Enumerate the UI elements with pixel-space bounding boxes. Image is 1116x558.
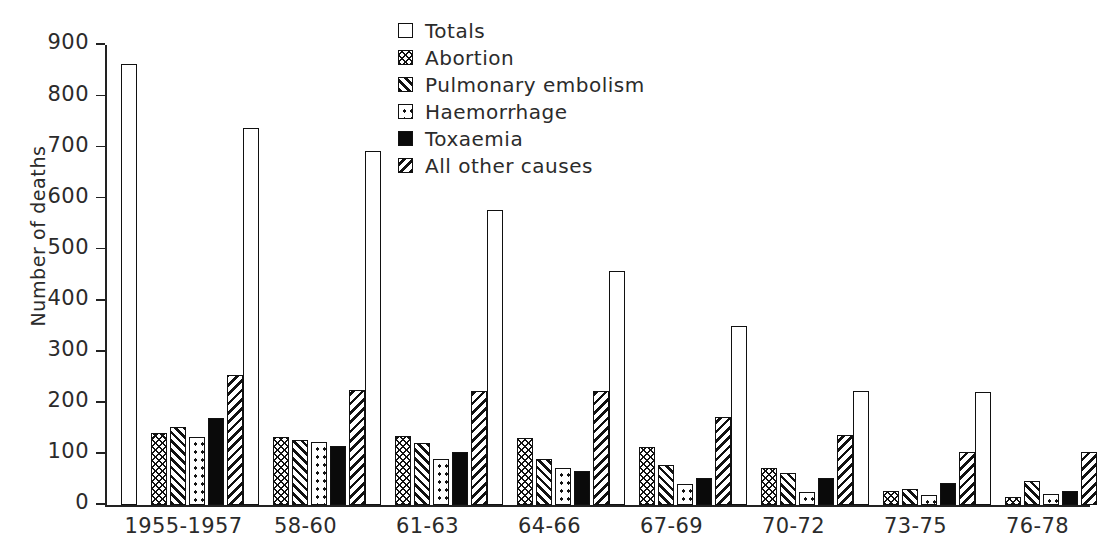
bar xyxy=(902,489,918,505)
y-tick: 0 xyxy=(96,503,105,505)
bar xyxy=(487,210,503,505)
legend-swatch-icon xyxy=(398,77,413,92)
legend-item: Toxaemia xyxy=(398,126,645,151)
legend-swatch-icon xyxy=(398,23,413,38)
bar xyxy=(555,468,571,505)
x-axis-category-label: 1955-1957 xyxy=(124,514,242,538)
legend-item: Totals xyxy=(398,18,645,43)
bar xyxy=(761,468,777,505)
legend-swatch-icon xyxy=(398,158,413,173)
bar xyxy=(349,390,365,505)
bar xyxy=(658,465,674,505)
bar xyxy=(940,483,956,505)
bar xyxy=(799,492,815,505)
bar xyxy=(395,436,411,506)
maternal-deaths-bar-chart: Number of deaths 01002003004005006007008… xyxy=(0,0,1116,558)
y-tick: 100 xyxy=(96,452,105,454)
y-tick-label: 600 xyxy=(47,184,89,208)
y-tick-label: 200 xyxy=(47,388,89,412)
x-axis-category-label: 58-60 xyxy=(274,514,337,538)
y-tick: 600 xyxy=(96,197,105,199)
bar xyxy=(780,473,796,505)
bar xyxy=(414,443,430,505)
y-tick-label: 700 xyxy=(47,133,89,157)
legend-item: Pulmonary embolism xyxy=(398,72,645,97)
legend-swatch-icon xyxy=(398,104,413,119)
bar xyxy=(536,459,552,506)
legend-swatch-icon xyxy=(398,131,413,146)
x-axis-category-label: 76-78 xyxy=(1006,514,1069,538)
bar xyxy=(189,437,205,505)
legend-label: Pulmonary embolism xyxy=(425,73,645,97)
y-tick: 800 xyxy=(96,95,105,97)
bar xyxy=(837,435,853,505)
y-tick-label: 400 xyxy=(47,286,89,310)
y-tick-label: 900 xyxy=(47,30,89,54)
bar xyxy=(609,271,625,505)
y-tick-label: 100 xyxy=(47,439,89,463)
y-tick: 300 xyxy=(96,350,105,352)
bar xyxy=(883,491,899,505)
bar-group xyxy=(975,45,1089,505)
y-tick: 400 xyxy=(96,299,105,301)
bar xyxy=(731,326,747,505)
bar xyxy=(715,417,731,505)
bar xyxy=(921,495,937,505)
bar xyxy=(1081,452,1097,505)
legend-item: All other causes xyxy=(398,153,645,178)
bar xyxy=(1062,491,1078,505)
bar xyxy=(1024,481,1040,505)
bar xyxy=(471,391,487,505)
legend-item: Abortion xyxy=(398,45,645,70)
y-tick: 900 xyxy=(96,43,105,45)
bar xyxy=(227,375,243,505)
bar xyxy=(853,391,869,505)
legend-label: Abortion xyxy=(425,46,514,70)
x-axis-category-label: 61-63 xyxy=(396,514,459,538)
bar xyxy=(959,452,975,505)
bar xyxy=(574,471,590,505)
bar xyxy=(151,433,167,505)
bar xyxy=(818,478,834,505)
bar xyxy=(365,151,381,505)
bar-group xyxy=(121,45,235,505)
bar xyxy=(517,438,533,505)
bar xyxy=(593,391,609,505)
legend-label: Toxaemia xyxy=(425,127,523,151)
x-axis-category-label: 64-66 xyxy=(518,514,581,538)
y-tick: 200 xyxy=(96,401,105,403)
bar xyxy=(330,446,346,505)
bar xyxy=(1005,497,1021,505)
legend-label: Haemorrhage xyxy=(425,100,568,124)
bar xyxy=(639,447,655,505)
y-axis-line xyxy=(105,45,107,505)
y-tick: 700 xyxy=(96,146,105,148)
bar xyxy=(311,442,327,505)
x-axis-category-label: 73-75 xyxy=(884,514,947,538)
bar xyxy=(208,418,224,505)
y-tick-label: 800 xyxy=(47,82,89,106)
bar-group xyxy=(853,45,967,505)
y-tick-label: 0 xyxy=(75,490,89,514)
legend-item: Haemorrhage xyxy=(398,99,645,124)
y-tick: 500 xyxy=(96,248,105,250)
bar xyxy=(121,64,137,505)
bar xyxy=(433,459,449,506)
chart-legend: TotalsAbortionPulmonary embolismHaemorrh… xyxy=(398,18,645,180)
bar xyxy=(696,478,712,505)
legend-label: All other causes xyxy=(425,154,593,178)
y-axis-title: Number of deaths xyxy=(27,136,49,336)
x-axis-line xyxy=(105,505,1090,507)
legend-label: Totals xyxy=(425,19,485,43)
bar-group xyxy=(243,45,357,505)
legend-swatch-icon xyxy=(398,50,413,65)
bar xyxy=(273,437,289,505)
bar xyxy=(243,128,259,505)
x-axis-category-label: 70-72 xyxy=(762,514,825,538)
x-axis-category-label: 67-69 xyxy=(640,514,703,538)
bar xyxy=(170,427,186,505)
bar xyxy=(975,392,991,505)
bar-group xyxy=(731,45,845,505)
y-tick-label: 500 xyxy=(47,235,89,259)
bar xyxy=(1043,494,1059,505)
